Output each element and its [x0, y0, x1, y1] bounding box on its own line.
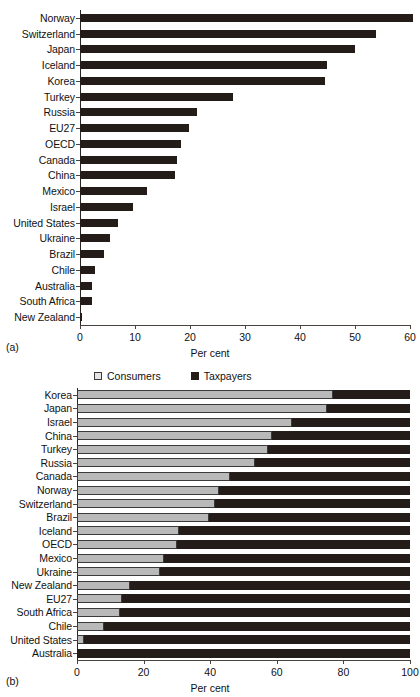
category-label: Australia: [32, 648, 72, 659]
bar: [80, 45, 355, 53]
category-label: Israel: [50, 202, 75, 213]
category-label: Norway: [40, 13, 75, 24]
x-axis-tick: [300, 325, 301, 329]
bar-segment-taxpayers: [104, 622, 410, 631]
bar: [80, 234, 110, 242]
x-axis-tick-label: 0: [77, 332, 83, 343]
x-axis-tick-label: 10: [129, 332, 141, 343]
category-label: Israel: [47, 417, 72, 428]
bar-segment-consumers: [77, 608, 120, 617]
x-axis-tick: [210, 660, 211, 664]
bar: [80, 297, 92, 305]
bar: [80, 250, 104, 258]
bar: [80, 171, 175, 179]
bar-segment-taxpayers: [268, 445, 410, 454]
x-axis-tick: [410, 325, 411, 329]
x-axis-tick: [410, 660, 411, 664]
bar-segment-consumers: [77, 418, 292, 427]
x-axis-tick-label: 60: [271, 667, 283, 678]
panel-b-plot-area: [77, 388, 410, 660]
bar: [80, 124, 189, 132]
category-label: Russia: [44, 107, 76, 118]
bar-segment-consumers: [77, 499, 215, 508]
x-axis-tick-label: 50: [349, 332, 361, 343]
bar-segment-consumers: [77, 581, 130, 590]
bar: [80, 140, 181, 148]
bar-segment-taxpayers: [327, 404, 410, 413]
category-label: OECD: [42, 539, 72, 550]
x-axis-tick: [245, 325, 246, 329]
bar-segment-consumers: [77, 472, 230, 481]
bar: [80, 187, 147, 195]
category-label: Australia: [35, 280, 75, 291]
legend-swatch-taxpayers-icon: [191, 372, 199, 380]
category-label: Japan: [44, 403, 72, 414]
bar-segment-consumers: [77, 390, 333, 399]
category-label: Chile: [49, 621, 72, 632]
bar-segment-consumers: [77, 594, 122, 603]
panel-b-x-axis: [77, 660, 410, 661]
category-label: EU27: [46, 594, 72, 605]
chart-panel-b: Consumers Taxpayers KoreaJapanIsraelChin…: [0, 368, 420, 697]
panel-b-y-axis: [77, 388, 78, 660]
bar-segment-taxpayers: [230, 472, 410, 481]
bar-segment-taxpayers: [77, 649, 410, 658]
bar: [80, 30, 376, 38]
x-axis-tick: [355, 325, 356, 329]
category-label: Canada: [39, 154, 75, 165]
category-label: Russia: [41, 458, 73, 469]
category-label: China: [45, 430, 72, 441]
category-label: Brazil: [46, 512, 72, 523]
x-axis-tick-label: 80: [338, 667, 350, 678]
panel-b-x-axis-title: Per cent: [0, 682, 420, 694]
x-axis-tick: [190, 325, 191, 329]
bar: [80, 156, 177, 164]
x-axis-tick-label: 60: [404, 332, 416, 343]
panel-a-x-axis-title: Per cent: [0, 347, 420, 359]
bar-segment-taxpayers: [120, 608, 410, 617]
x-axis-tick-label: 40: [204, 667, 216, 678]
bar: [80, 203, 133, 211]
bar-segment-consumers: [77, 540, 177, 549]
category-label: Iceland: [39, 526, 72, 537]
bar-segment-consumers: [77, 458, 255, 467]
category-label: Turkey: [41, 444, 72, 455]
bar: [80, 108, 197, 116]
x-axis-tick-label: 100: [401, 667, 419, 678]
category-label: OECD: [45, 139, 75, 150]
x-axis-tick: [77, 660, 78, 664]
bar: [80, 93, 233, 101]
panel-a-plot-area: [80, 10, 410, 325]
category-label: Switzerland: [19, 498, 72, 509]
panel-a-y-axis: [80, 10, 81, 325]
legend-item-taxpayers[interactable]: Taxpayers: [191, 370, 252, 382]
bar-segment-consumers: [77, 486, 219, 495]
bar-segment-taxpayers: [164, 554, 410, 563]
chart-panel-a: NorwaySwitzerlandJapanIcelandKoreaTurkey…: [0, 0, 420, 362]
x-axis-tick: [343, 660, 344, 664]
legend-item-consumers[interactable]: Consumers: [94, 370, 161, 382]
x-axis-tick-label: 20: [138, 667, 150, 678]
category-label: Brazil: [49, 249, 75, 260]
bar-segment-consumers: [77, 554, 164, 563]
category-label: China: [48, 170, 75, 181]
bar-segment-taxpayers: [160, 567, 410, 576]
category-label: Ukraine: [37, 566, 72, 577]
category-label: Iceland: [42, 60, 75, 71]
bar-segment-consumers: [77, 567, 160, 576]
bar: [80, 282, 92, 290]
bar-segment-taxpayers: [177, 540, 410, 549]
x-axis-tick: [135, 325, 136, 329]
bar-segment-taxpayers: [122, 594, 410, 603]
bar-segment-taxpayers: [215, 499, 410, 508]
bar-segment-taxpayers: [255, 458, 410, 467]
category-label: South Africa: [17, 607, 72, 618]
category-label: Mexico: [39, 553, 72, 564]
bar-segment-taxpayers: [292, 418, 410, 427]
panel-b-legend: Consumers Taxpayers: [76, 368, 252, 384]
bar-segment-taxpayers: [130, 581, 410, 590]
panel-b-tag: (b): [6, 675, 19, 687]
bar-segment-consumers: [77, 635, 84, 644]
panel-a-tag: (a): [6, 341, 19, 353]
category-label: Korea: [44, 390, 72, 401]
